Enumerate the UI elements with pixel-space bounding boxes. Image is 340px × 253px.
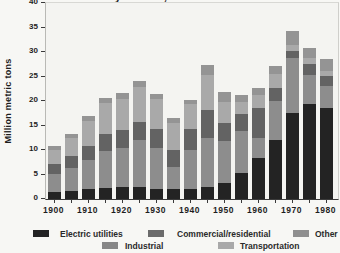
bar-1950-commercial-residential	[218, 123, 231, 142]
bar-1965-commercial-residential	[269, 88, 282, 101]
other-swatch	[293, 230, 309, 237]
x-tick-mark	[54, 200, 55, 203]
bar-1900-other	[48, 146, 61, 149]
bar-1955-other	[235, 95, 248, 102]
bar-1935-commercial-residential	[167, 150, 180, 167]
x-tick-mark	[326, 200, 327, 203]
bar-1910-other	[82, 116, 95, 121]
x-tick-mark	[105, 200, 106, 203]
bar-1900-transportation	[48, 150, 61, 165]
y-tick-mark	[41, 76, 45, 77]
x-tick-label-1910: 1910	[71, 205, 105, 215]
x-tick-mark	[122, 200, 123, 203]
bar-1935-industrial	[167, 167, 180, 189]
bar-1930-transportation	[150, 99, 163, 129]
bar-1920-industrial	[116, 148, 129, 187]
y-tick-label-0: 0	[16, 193, 38, 202]
x-tick-label-1900: 1900	[37, 205, 71, 215]
bar-1980-other	[320, 59, 333, 71]
x-tick-mark	[241, 200, 242, 203]
y-tick-mark	[41, 2, 45, 3]
bar-1955-industrial	[235, 131, 248, 173]
plot-area	[45, 2, 339, 200]
bar-1935-transportation	[167, 123, 180, 150]
bar-1950-industrial	[218, 141, 231, 183]
bar-1905-commercial-residential	[65, 156, 78, 168]
bar-1945-industrial	[201, 138, 214, 187]
bar-1960-other	[252, 88, 265, 95]
legend-item-transportation: Transportation	[0, 242, 340, 251]
bar-1900-industrial	[48, 174, 61, 192]
bar-1920-commercial-residential	[116, 130, 129, 147]
bar-1935-other	[167, 118, 180, 123]
bar-1975-other	[303, 48, 316, 59]
bar-1955-commercial-residential	[235, 114, 248, 131]
y-tick-label-40: 40	[16, 0, 38, 6]
y-tick-label-35: 35	[16, 22, 38, 31]
x-tick-mark	[207, 200, 208, 203]
bar-1915-transportation	[99, 103, 112, 133]
legend-label: Other	[315, 229, 338, 239]
bar-1920-other	[116, 93, 129, 99]
y-tick-label-25: 25	[16, 71, 38, 80]
bar-1925-other	[133, 81, 146, 87]
bar-1980-commercial-residential	[320, 76, 333, 86]
bar-1970-transportation	[286, 45, 299, 51]
bar-1970-commercial-residential	[286, 51, 299, 58]
bar-1900-commercial-residential	[48, 164, 61, 174]
y-axis-label: Million metric tons	[3, 46, 13, 156]
x-tick-label-1920: 1920	[105, 205, 139, 215]
bar-1975-electric-utilities	[303, 104, 316, 199]
legend-item-other: Other	[0, 230, 340, 239]
bar-1960-transportation	[252, 95, 265, 108]
x-tick-mark	[309, 200, 310, 203]
x-tick-mark	[173, 200, 174, 203]
bar-1930-industrial	[150, 148, 163, 190]
bar-1905-transportation	[65, 138, 78, 157]
bar-1920-electric-utilities	[116, 187, 129, 199]
bar-1960-industrial	[252, 138, 265, 158]
bar-1960-electric-utilities	[252, 158, 265, 199]
y-tick-mark	[41, 27, 45, 28]
bar-1940-transportation	[184, 104, 197, 129]
bar-1905-electric-utilities	[65, 191, 78, 199]
y-tick-mark	[41, 149, 45, 150]
bar-1950-transportation	[218, 102, 231, 123]
y-tick-label-15: 15	[16, 120, 38, 129]
bar-1955-electric-utilities	[235, 173, 248, 199]
x-tick-mark	[292, 200, 293, 203]
bar-1920-transportation	[116, 99, 129, 131]
x-tick-label-1980: 1980	[309, 205, 340, 215]
y-tick-label-30: 30	[16, 46, 38, 55]
bar-1970-electric-utilities	[286, 113, 299, 199]
bar-1965-electric-utilities	[269, 140, 282, 199]
bar-1945-electric-utilities	[201, 187, 214, 199]
bar-1930-commercial-residential	[150, 129, 163, 147]
y-tick-label-5: 5	[16, 169, 38, 178]
x-tick-label-1960: 1960	[241, 205, 275, 215]
bar-1925-commercial-residential	[133, 122, 146, 141]
bar-1975-transportation	[303, 58, 316, 64]
bar-1965-transportation	[269, 74, 282, 89]
x-tick-mark	[156, 200, 157, 203]
y-tick-mark	[41, 51, 45, 52]
bar-1980-industrial	[320, 86, 333, 108]
bar-1910-commercial-residential	[82, 146, 95, 160]
x-tick-mark	[258, 200, 259, 203]
y-tick-mark	[41, 198, 45, 199]
bar-1910-electric-utilities	[82, 189, 95, 199]
bar-1940-commercial-residential	[184, 129, 197, 149]
bar-1930-other	[150, 94, 163, 99]
bar-1970-other	[286, 31, 299, 45]
bar-1960-commercial-residential	[252, 108, 265, 138]
bar-1925-electric-utilities	[133, 187, 146, 199]
bar-1925-transportation	[133, 87, 146, 121]
x-tick-mark	[190, 200, 191, 203]
bar-1935-electric-utilities	[167, 189, 180, 199]
bar-1940-electric-utilities	[184, 189, 197, 199]
bar-1950-other	[218, 92, 231, 102]
y-tick-mark	[41, 125, 45, 126]
bar-1940-other	[184, 100, 197, 105]
bar-1910-transportation	[82, 121, 95, 146]
y-tick-label-20: 20	[16, 95, 38, 104]
